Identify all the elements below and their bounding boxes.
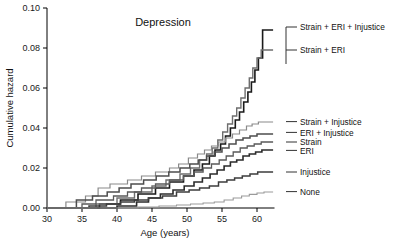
chart-canvas: 303540455055600.000.020.040.060.080.10St… [0, 0, 397, 244]
x-tick-label: 40 [112, 214, 122, 224]
y-tick-label: 0.10 [22, 3, 40, 13]
y-tick-label: 0.02 [22, 163, 40, 173]
y-tick-label: 0.08 [22, 43, 40, 53]
axes-group [43, 8, 275, 212]
legend-label: Strain + ERI [300, 45, 345, 55]
legend-label: ERI + Injustice [300, 128, 354, 138]
x-tick-label: 45 [147, 214, 157, 224]
series-line-strain-eri-injustice [47, 30, 273, 208]
curves-group [47, 30, 273, 208]
x-axis-title: Age (years) [140, 227, 189, 238]
text-group: 303540455055600.000.020.040.060.080.10St… [4, 3, 385, 238]
legend-label: Strain + Injustice [300, 117, 362, 127]
y-tick-label: 0.00 [22, 203, 40, 213]
chart-title: Depression [135, 16, 191, 28]
x-tick-label: 35 [77, 214, 87, 224]
x-tick-label: 55 [217, 214, 227, 224]
x-tick-label: 60 [252, 214, 262, 224]
y-tick-label: 0.06 [22, 83, 40, 93]
legend-label: ERI [300, 146, 314, 156]
x-tick-label: 50 [182, 214, 192, 224]
legend-label: None [300, 187, 320, 197]
legend-label: Injustice [300, 167, 331, 177]
legend-leaders-group [286, 27, 297, 192]
chart-figure: 303540455055600.000.020.040.060.080.10St… [0, 0, 397, 244]
legend-label: Strain + ERI + Injustice [300, 22, 385, 32]
y-tick-label: 0.04 [22, 123, 40, 133]
y-axis-title: Cumulative hazard [4, 68, 15, 147]
x-tick-label: 30 [42, 214, 52, 224]
